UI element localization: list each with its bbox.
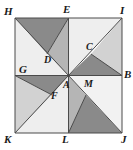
vertex-label-b: B [124,69,131,80]
inner-label-c: C [86,42,93,52]
vertex-label-j: J [121,134,127,145]
pinwheel-diagram-svg [0,0,133,150]
inner-label-m: M [84,79,93,89]
inner-label-a: A [63,80,70,90]
vertex-label-e: E [63,4,70,15]
inner-label-d: D [44,55,51,65]
geometry-figure: HEIGBKLJDCAFM [0,0,133,150]
vertex-label-g: G [19,64,27,75]
vertex-label-l: L [62,134,69,145]
construction-lines [15,18,122,133]
vertex-label-h: H [4,6,13,17]
inner-label-f: F [51,91,58,101]
vertex-label-i: I [120,5,124,16]
vertex-label-k: K [4,134,11,145]
